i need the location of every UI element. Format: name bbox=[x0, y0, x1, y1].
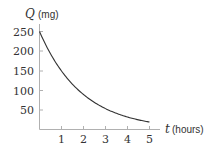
y-tick-label: 50 bbox=[20, 104, 34, 117]
x-tick-label: 3 bbox=[102, 133, 109, 146]
x-tick-label: 4 bbox=[124, 133, 131, 146]
y-tick-label: 200 bbox=[13, 45, 34, 58]
x-tick-label: 5 bbox=[146, 133, 153, 146]
y-tick-label: 100 bbox=[13, 85, 34, 98]
x-axis-label-unit: (hours) bbox=[172, 124, 204, 135]
decay-chart: 50 100 150 200 250 1 2 3 4 5 Q (mg) t (h… bbox=[0, 0, 211, 154]
x-axis-label-var: t bbox=[165, 122, 170, 136]
y-tick-label: 150 bbox=[13, 65, 34, 78]
decay-curve bbox=[40, 32, 150, 123]
y-axis-label-var: Q bbox=[25, 7, 35, 21]
x-tick-label: 2 bbox=[80, 133, 87, 146]
y-axis-label-unit: (mg) bbox=[38, 9, 59, 20]
y-ticks bbox=[40, 32, 44, 111]
y-tick-label: 250 bbox=[13, 26, 34, 39]
x-tick-label: 1 bbox=[58, 133, 65, 146]
x-ticks bbox=[62, 126, 150, 130]
